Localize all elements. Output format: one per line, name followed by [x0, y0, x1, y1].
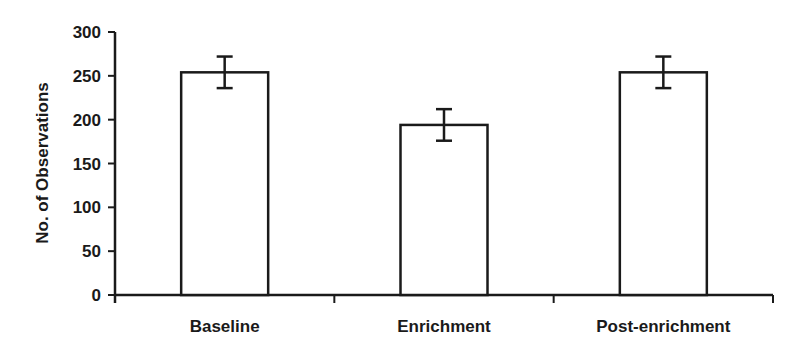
y-tick-label: 250 — [73, 67, 101, 86]
y-tick-label: 300 — [73, 23, 101, 42]
bar-chart: 050100150200250300 BaselineEnrichmentPos… — [0, 0, 797, 351]
y-tick-label: 50 — [82, 242, 101, 261]
y-axis-title: No. of Observations — [33, 82, 52, 244]
bars — [181, 57, 707, 295]
bar-enrichment — [401, 109, 488, 295]
bar-post-enrichment — [620, 57, 707, 295]
y-tick-label: 150 — [73, 155, 101, 174]
y-tick-label: 200 — [73, 111, 101, 130]
y-axis: 050100150200250300 — [73, 23, 115, 305]
x-category-label: Baseline — [190, 317, 260, 336]
bar-baseline — [181, 57, 268, 295]
x-axis: BaselineEnrichmentPost-enrichment — [115, 295, 773, 336]
x-category-label: Enrichment — [397, 317, 491, 336]
y-tick-label: 0 — [92, 286, 101, 305]
x-category-label: Post-enrichment — [596, 317, 730, 336]
y-tick-label: 100 — [73, 198, 101, 217]
